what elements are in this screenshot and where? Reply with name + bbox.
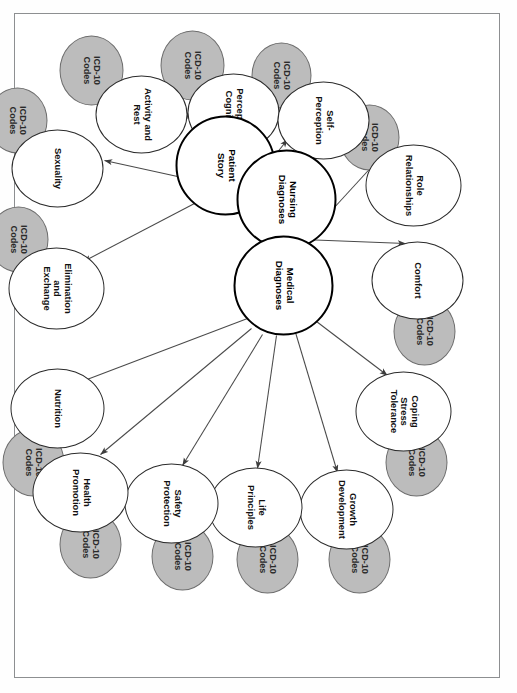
node-label-comfort: Comfort <box>412 262 423 298</box>
edge-patient-story-to-elimination-exchange <box>83 203 194 261</box>
node-self-perception[interactable]: Self- Perception <box>277 81 369 159</box>
core-node-medical-diagnoses[interactable]: Medical Diagnoses <box>233 235 333 335</box>
node-life-principles[interactable]: Life Principles <box>208 467 302 547</box>
node-growth-development[interactable]: Growth Development <box>299 469 393 549</box>
node-coping-stress-tolerance[interactable]: Coping Stress Tolerance <box>355 371 451 451</box>
node-safety-protection[interactable]: Safety Protection <box>124 463 218 543</box>
icd10-codes-label: ICD-10 Codes <box>406 448 426 477</box>
edge-medical-diagnoses-to-nutrition <box>76 318 247 383</box>
icd10-codes-label: ICD-10 Codes <box>414 317 434 346</box>
node-role-relationships[interactable]: Role Relationships <box>365 144 461 226</box>
icd10-codes-label: ICD-10 Codes <box>7 106 27 135</box>
core-node-label-medical-diagnoses: Medical Diagnoses <box>272 260 294 310</box>
icd10-codes-label: ICD-10 Codes <box>271 61 291 90</box>
edge-medical-diagnoses-to-coping-stress-tolerance <box>316 321 387 375</box>
node-elimination-exchange[interactable]: Elimination and Exchange <box>8 247 104 329</box>
node-activity-and-rest[interactable]: Activity and Rest <box>95 75 187 153</box>
node-label-health-promotion: Health Promotion <box>69 469 90 516</box>
diagram-frame: ICD-10 CodesICD-10 CodesICD-10 CodesICD-… <box>14 13 500 678</box>
icd10-codes-label: ICD-10 Codes <box>257 545 277 574</box>
node-label-elimination-exchange: Elimination and Exchange <box>40 263 72 314</box>
node-label-growth-development: Growth Development <box>335 480 356 539</box>
node-label-safety-protection: Safety Protection <box>160 480 181 526</box>
icd10-codes-label: ICD-10 Codes <box>172 542 192 571</box>
edge-medical-diagnoses-to-life-principles <box>257 335 276 468</box>
core-node-nursing-diagnoses[interactable]: Nursing Diagnoses <box>236 149 336 249</box>
icd10-codes-label: ICD-10 Codes <box>182 51 202 80</box>
node-label-life-principles: Life Principles <box>244 485 265 530</box>
node-label-coping-stress-tolerance: Coping Stress Tolerance <box>387 389 419 433</box>
icd10-codes-label: ICD-10 Codes <box>8 225 28 254</box>
icd10-codes-label: ICD-10 Codes <box>81 56 101 85</box>
node-label-role-relationships: Role Relationships <box>402 154 423 215</box>
edge-nursing-diagnoses-to-comfort <box>302 239 405 243</box>
edge-medical-diagnoses-to-growth-development <box>295 332 337 472</box>
node-label-nutrition: Nutrition <box>52 388 63 427</box>
diagram-page: ICD-10 CodesICD-10 CodesICD-10 CodesICD-… <box>0 0 517 693</box>
node-health-promotion[interactable]: Health Promotion <box>32 452 128 532</box>
icd10-codes-label: ICD-10 Codes <box>80 530 100 559</box>
core-node-label-patient-story: Patient Story <box>214 149 236 182</box>
concept-map-stage: ICD-10 CodesICD-10 CodesICD-10 CodesICD-… <box>14 13 500 678</box>
node-comfort[interactable]: Comfort <box>371 241 463 319</box>
node-label-self-perception: Self- Perception <box>312 96 333 144</box>
node-label-activity-and-rest: Activity and Rest <box>130 87 151 140</box>
core-node-label-nursing-diagnoses: Nursing Diagnoses <box>275 174 297 224</box>
node-sexuality[interactable]: Sexuality <box>11 129 103 207</box>
node-label-sexuality: Sexuality <box>52 147 63 188</box>
node-nutrition[interactable]: Nutrition <box>10 368 104 448</box>
